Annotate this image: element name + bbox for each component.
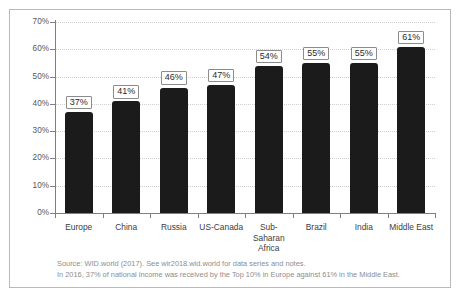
x-tick-mark bbox=[293, 213, 294, 218]
bar-value-label: 37% bbox=[66, 96, 92, 109]
description-note: In 2016, 37% of national income was rece… bbox=[57, 271, 400, 280]
x-tick-mark bbox=[150, 213, 151, 218]
chart-figure: Share of national income (%) 0%10%20%30%… bbox=[0, 0, 462, 302]
bar-value-label: 54% bbox=[256, 50, 282, 63]
y-tick-label: 50% bbox=[15, 73, 49, 81]
y-tick-label: 70% bbox=[15, 18, 49, 26]
bar-value-label: 55% bbox=[303, 47, 329, 60]
bar-value-label: 47% bbox=[208, 69, 234, 82]
x-tick-mark bbox=[198, 213, 199, 218]
bar-value-label: 46% bbox=[161, 71, 187, 84]
y-tick-label: 10% bbox=[15, 182, 49, 190]
bar-value-label: 61% bbox=[398, 31, 424, 44]
bar[interactable] bbox=[207, 85, 235, 213]
bar[interactable] bbox=[160, 88, 188, 214]
x-tick-mark bbox=[245, 213, 246, 218]
y-tick-label: 40% bbox=[15, 100, 49, 108]
x-tick-label: Middle East bbox=[381, 222, 441, 233]
y-tick-label: 30% bbox=[15, 127, 49, 135]
y-tick-label: 20% bbox=[15, 154, 49, 162]
x-tick-mark bbox=[435, 213, 436, 218]
bar[interactable] bbox=[112, 101, 140, 213]
x-tick-mark bbox=[388, 213, 389, 218]
x-tick-mark bbox=[55, 213, 56, 218]
plot-area bbox=[55, 22, 435, 213]
bar[interactable] bbox=[65, 112, 93, 213]
y-tick-label: 60% bbox=[15, 45, 49, 53]
bar[interactable] bbox=[302, 63, 330, 213]
x-tick-mark bbox=[103, 213, 104, 218]
source-note: Source: WID.world (2017). See wir2018.wi… bbox=[57, 260, 306, 269]
bar[interactable] bbox=[397, 47, 425, 213]
bar-value-label: 41% bbox=[113, 85, 139, 98]
bar[interactable] bbox=[350, 63, 378, 213]
bar[interactable] bbox=[255, 66, 283, 213]
bar-value-label: 55% bbox=[351, 47, 377, 60]
x-tick-mark bbox=[340, 213, 341, 218]
y-tick-label: 0% bbox=[15, 209, 49, 217]
